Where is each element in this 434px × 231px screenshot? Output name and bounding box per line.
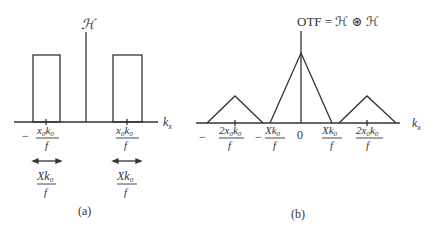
right-width-den: f	[124, 186, 129, 198]
tick-zero: 0	[297, 128, 303, 142]
tick-xk0-num: Xk0	[321, 124, 338, 138]
tick-xk0-den: f	[330, 139, 335, 151]
right-tick-num: x0k0	[115, 124, 133, 138]
otf-right-sideband	[339, 96, 396, 123]
tick-neg-xk0-num: Xk0	[264, 124, 281, 138]
right-width-num: Xk0	[116, 169, 134, 184]
tick-neg-xk0-den: f	[273, 139, 278, 151]
left-width-den: f	[44, 186, 49, 198]
tick-neg-xk0-sign: −	[255, 130, 262, 144]
otf-left-sideband	[207, 96, 263, 123]
panel-b	[196, 31, 400, 138]
left-width-num: Xk0	[36, 169, 54, 184]
left-tick-num: x0k0	[36, 124, 54, 138]
pupil-function-label: ℋ	[81, 17, 97, 32]
axis-label-b: kx	[412, 116, 421, 132]
left-tick-sign: −	[22, 129, 29, 143]
axis-label-a: kx	[163, 115, 172, 131]
figure: ℋ kx − x0k0 f x0k0 f Xk0 f Xk0 f (a) OTF…	[0, 0, 434, 231]
caption-a: (a)	[78, 204, 91, 218]
left-tick-den: f	[45, 139, 50, 151]
tick-neg-2x0k0-sign: −	[199, 130, 206, 144]
tick-neg-2x0k0-num: 2x0k0	[219, 124, 242, 138]
tick-2x0k0-den: f	[366, 139, 371, 151]
caption-b: (b)	[291, 207, 305, 221]
left-pupil-rect	[33, 55, 60, 122]
right-tick-den: f	[124, 139, 129, 151]
right-pupil-rect	[113, 55, 142, 122]
tick-2x0k0-num: 2x0k0	[356, 124, 379, 138]
otf-label: OTF = ℋ ⊛ ℋ	[297, 14, 379, 29]
panel-a	[14, 32, 158, 184]
tick-neg-2x0k0-den: f	[228, 139, 233, 151]
